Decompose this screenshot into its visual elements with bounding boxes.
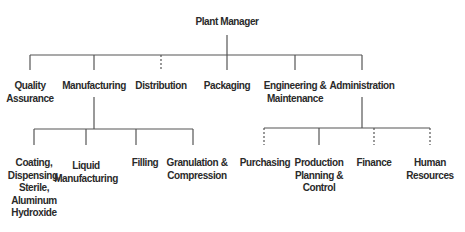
node-distribution: Distribution	[135, 80, 186, 93]
node-plant-manager: Plant Manager	[195, 16, 258, 29]
node-human-resources: Human Resources	[406, 157, 454, 182]
node-quality-assurance: Quality Assurance	[6, 80, 54, 105]
node-label: Dispensing,	[8, 170, 60, 183]
node-label: Coating,	[8, 157, 60, 170]
node-label: Granulation &	[167, 157, 228, 170]
node-production-planning-control: Production Planning & Control	[295, 157, 344, 195]
node-label: Aluminum	[8, 195, 60, 208]
node-label: Manufacturing	[54, 173, 118, 186]
node-manufacturing: Manufacturing	[62, 80, 126, 93]
node-label: Administration	[330, 80, 395, 93]
node-administration: Administration	[330, 80, 395, 93]
node-label: Planning &	[295, 170, 344, 183]
node-label: Maintenance	[264, 93, 327, 106]
node-label: Filling	[132, 157, 159, 170]
node-label: Assurance	[6, 93, 54, 106]
node-label: Hydroxide	[8, 207, 60, 220]
node-packaging: Packaging	[204, 80, 250, 93]
node-label: Production	[295, 157, 344, 170]
node-purchasing: Purchasing	[240, 157, 290, 170]
node-label: Liquid	[54, 160, 118, 173]
node-label: Finance	[357, 157, 392, 170]
node-label: Purchasing	[240, 157, 290, 170]
node-label: Human	[406, 157, 454, 170]
node-label: Resources	[406, 170, 454, 183]
node-label: Engineering &	[264, 80, 327, 93]
node-label: Quality	[6, 80, 54, 93]
node-label: Packaging	[204, 80, 250, 93]
node-label: Control	[295, 182, 344, 195]
org-chart: Plant Manager Quality Assurance Manufact…	[0, 0, 465, 232]
node-engineering-maintenance: Engineering & Maintenance	[264, 80, 327, 105]
node-granulation-compression: Granulation & Compression	[167, 157, 228, 182]
connector-lines	[0, 0, 465, 232]
node-label: Plant Manager	[195, 16, 258, 29]
node-label: Compression	[167, 170, 228, 183]
node-filling: Filling	[132, 157, 159, 170]
node-label: Distribution	[135, 80, 186, 93]
node-label: Sterile,	[8, 182, 60, 195]
node-label: Manufacturing	[62, 80, 126, 93]
node-finance: Finance	[357, 157, 392, 170]
node-coating-dispensing: Coating, Dispensing, Sterile, Aluminum H…	[8, 157, 60, 220]
node-liquid-manufacturing: Liquid Manufacturing	[54, 160, 118, 185]
